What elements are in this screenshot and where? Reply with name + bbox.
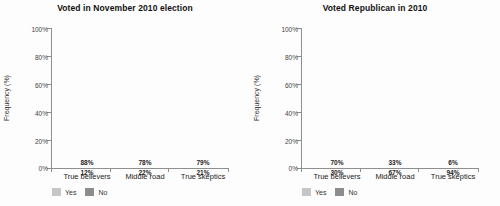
y-tick-label: 60% xyxy=(35,82,48,89)
chart-title: Voted Republican in 2010 xyxy=(250,3,500,13)
x-axis-label-true-skeptics: True skeptics xyxy=(413,172,493,181)
y-axis-title: Frequency (%) xyxy=(253,75,260,121)
legend: Yes No xyxy=(52,188,107,196)
bar-segment-label-yes: 6% xyxy=(438,159,468,167)
y-tick-label: 60% xyxy=(285,82,298,89)
y-axis-title: Frequency (%) xyxy=(3,75,10,121)
legend-swatch-no-icon xyxy=(335,188,344,196)
y-tick-label: 80% xyxy=(35,54,48,61)
y-tick-label: 0% xyxy=(39,165,48,172)
y-tick-label: 20% xyxy=(35,138,48,145)
bar-segment-label-yes: 70% xyxy=(322,159,352,167)
y-tick-label: 20% xyxy=(285,138,298,145)
legend-swatch-yes-icon xyxy=(52,188,61,196)
y-tick-label: 40% xyxy=(285,110,298,117)
legend-swatch-no-icon xyxy=(85,188,94,196)
y-tick-label: 100% xyxy=(281,26,298,33)
legend-item-yes[interactable]: Yes xyxy=(302,188,326,196)
bar-segment-label-yes: 79% xyxy=(188,159,218,167)
legend-swatch-yes-icon xyxy=(302,188,311,196)
legend-label-no: No xyxy=(98,189,107,196)
y-tick-label: 80% xyxy=(285,54,298,61)
stacked-bar-chart-figure: Voted in November 2010 election Frequenc… xyxy=(0,0,500,206)
plot-area: 88% 12% 78% 22% 79% 21% xyxy=(52,29,228,168)
bar-segment-label-yes: 78% xyxy=(130,159,160,167)
legend-label-yes: Yes xyxy=(315,189,326,196)
x-axis-label-true-skeptics: True skeptics xyxy=(163,172,243,181)
bar-segment-label-yes: 33% xyxy=(380,159,410,167)
legend-label-yes: Yes xyxy=(65,189,76,196)
legend-item-yes[interactable]: Yes xyxy=(52,188,76,196)
legend-label-no: No xyxy=(348,189,357,196)
legend: Yes No xyxy=(302,188,357,196)
legend-item-no[interactable]: No xyxy=(335,188,357,196)
y-tick-label: 40% xyxy=(35,110,48,117)
legend-item-no[interactable]: No xyxy=(85,188,107,196)
chart-panel-voted-november-2010: Voted in November 2010 election Frequenc… xyxy=(0,0,250,206)
plot-area: 70% 30% 33% 67% 6% 94% xyxy=(302,29,478,168)
y-tick-label: 0% xyxy=(289,165,298,172)
chart-panel-voted-republican-2010: Voted Republican in 2010 Frequency (%) 1… xyxy=(250,0,500,206)
y-tick-label: 100% xyxy=(31,26,48,33)
bar-segment-label-yes: 88% xyxy=(72,159,102,167)
chart-title: Voted in November 2010 election xyxy=(0,3,250,13)
